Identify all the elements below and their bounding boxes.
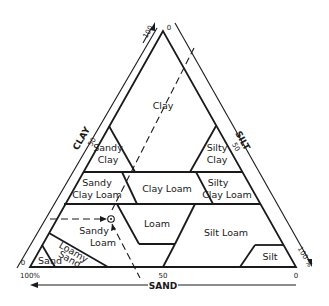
soil-texture-triangle: Clay Sandy Clay Silty Clay Sandy Clay Lo… — [0, 0, 329, 306]
sand-axis-label-text: SAND — [149, 281, 177, 291]
label-silt: Silt — [262, 251, 277, 262]
label-silty-clay-1: Silty — [207, 142, 228, 153]
label-silt-loam: Silt Loam — [204, 227, 248, 238]
silt-construction-line — [112, 224, 140, 278]
label-sandy-loam-1: Sandy — [79, 225, 109, 236]
label-sand: Sand — [38, 255, 62, 266]
label-sandy-clay-loam-1: Sandy — [82, 177, 112, 188]
sand-arrow-icon — [30, 282, 38, 288]
label-clay-loam: Clay Loam — [142, 183, 192, 194]
label-silty-clay-loam-1: Silty — [208, 177, 229, 188]
triangle-outline — [30, 31, 296, 267]
label-clay: Clay — [153, 100, 174, 111]
label-sandy-clay-1: Sandy — [93, 142, 123, 153]
label-sandy-loam-2: Loam — [90, 237, 116, 248]
clay-tick-0: 0 — [21, 259, 25, 267]
silt-tick-0: 0 — [167, 24, 171, 32]
silt-tick-100: 100 % — [296, 245, 314, 269]
construction-arrow-icon — [100, 216, 107, 222]
label-silty-clay-loam-2: Clay Loam — [202, 189, 252, 200]
sand-tick-50: 50 — [159, 272, 168, 280]
sand-tick-0: 0 — [294, 272, 298, 280]
sand-tick-100: 100% — [20, 272, 40, 280]
label-silty-clay-2: Clay — [207, 154, 228, 165]
label-sandy-clay-loam-2: Clay Loam — [72, 189, 122, 200]
label-sandy-clay-2: Clay — [98, 154, 119, 165]
label-loam: Loam — [144, 218, 170, 229]
